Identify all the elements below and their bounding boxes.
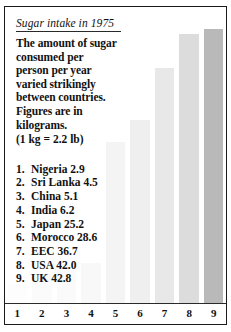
list-item-country: EEC bbox=[31, 245, 55, 257]
description-line: consumed per bbox=[16, 51, 138, 65]
list-item-rank: 4. bbox=[16, 204, 31, 218]
list-item-value: 5.1 bbox=[61, 190, 78, 202]
list-item-country: China bbox=[31, 190, 61, 202]
page-title: Sugar intake in 1975 bbox=[16, 16, 138, 30]
x-tick-4: 4 bbox=[79, 307, 103, 320]
list-item: 8.USA 42.0 bbox=[16, 259, 138, 273]
x-tick-3: 3 bbox=[54, 307, 78, 320]
description-line: kilograms. bbox=[16, 119, 138, 133]
x-tick-1: 1 bbox=[5, 307, 29, 320]
list-item-country: Nigeria bbox=[31, 163, 67, 175]
list-item-value: 42.0 bbox=[53, 259, 76, 271]
list-item-rank: 7. bbox=[16, 245, 31, 259]
description-line: The amount of sugar bbox=[16, 37, 138, 51]
sugar-intake-infographic: 123456789 Sugar intake in 1975 The amoun… bbox=[0, 0, 231, 332]
description-paragraph: The amount of sugarconsumed perperson pe… bbox=[16, 37, 138, 132]
x-tick-7: 7 bbox=[153, 307, 177, 320]
bar-7 bbox=[155, 68, 175, 303]
list-item-value: 25.2 bbox=[61, 218, 84, 230]
list-item-value: 6.2 bbox=[57, 204, 74, 216]
bar-1 bbox=[8, 284, 28, 303]
list-item-rank: 8. bbox=[16, 259, 31, 273]
list-item-country: Japan bbox=[31, 218, 61, 230]
description-line: Figures are in bbox=[16, 105, 138, 119]
x-tick-6: 6 bbox=[128, 307, 152, 320]
list-item: 2.Sri Lanka 4.5 bbox=[16, 176, 138, 190]
list-item-value: 4.5 bbox=[81, 176, 98, 188]
list-item: 4.India 6.2 bbox=[16, 204, 138, 218]
list-item-value: 36.7 bbox=[55, 245, 78, 257]
list-item-country: Morocco bbox=[31, 231, 74, 243]
description-line: between countries. bbox=[16, 91, 138, 105]
description-line: varied strikingly bbox=[16, 78, 138, 92]
list-item-country: UK bbox=[31, 272, 48, 284]
list-item-rank: 3. bbox=[16, 190, 31, 204]
list-item-country: Sri Lanka bbox=[31, 176, 81, 188]
list-item: 7.EEC 36.7 bbox=[16, 245, 138, 259]
x-tick-5: 5 bbox=[104, 307, 128, 320]
bar-9 bbox=[204, 29, 224, 303]
x-tick-2: 2 bbox=[30, 307, 54, 320]
list-item: 5.Japan 25.2 bbox=[16, 218, 138, 232]
list-item-value: 42.8 bbox=[48, 272, 71, 284]
title-underline bbox=[16, 31, 121, 32]
description-line: person per year bbox=[16, 64, 138, 78]
list-item-rank: 2. bbox=[16, 176, 31, 190]
list-item-rank: 1. bbox=[16, 163, 31, 177]
unit-conversion-note: (1 kg = 2.2 lb) bbox=[16, 133, 138, 147]
list-item-country: USA bbox=[31, 259, 53, 271]
list-item: 3.China 5.1 bbox=[16, 190, 138, 204]
x-axis-tick-labels: 123456789 bbox=[5, 304, 226, 324]
list-item-value: 2.9 bbox=[67, 163, 84, 175]
text-content-block: Sugar intake in 1975 The amount of sugar… bbox=[16, 16, 138, 286]
list-item-rank: 5. bbox=[16, 218, 31, 232]
country-ranking-list: 1.Nigeria 2.92.Sri Lanka 4.53.China 5.14… bbox=[16, 163, 138, 286]
x-tick-8: 8 bbox=[177, 307, 201, 320]
list-item: 9.UK 42.8 bbox=[16, 272, 138, 286]
list-item-value: 28.6 bbox=[74, 231, 97, 243]
list-item-rank: 6. bbox=[16, 231, 31, 245]
list-item: 1.Nigeria 2.9 bbox=[16, 163, 138, 177]
list-item-rank: 9. bbox=[16, 272, 31, 286]
list-item-country: India bbox=[31, 204, 57, 216]
bar-8 bbox=[179, 34, 199, 303]
list-item: 6.Morocco 28.6 bbox=[16, 231, 138, 245]
x-tick-9: 9 bbox=[202, 307, 226, 320]
